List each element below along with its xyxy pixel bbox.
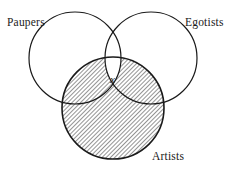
set-label-artists: Artists	[152, 151, 184, 163]
set-label-egotists: Egotists	[185, 17, 224, 29]
set-label-paupers: Paupers	[7, 17, 45, 29]
venn-diagram-figure: Paupers Egotists Artists x	[0, 0, 238, 178]
region-marker-x: x	[110, 74, 115, 85]
